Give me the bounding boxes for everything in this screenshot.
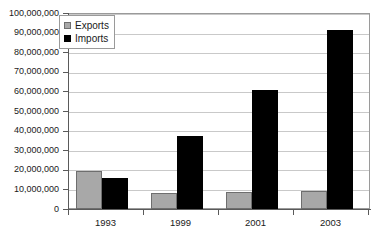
y-axis-tick [63,91,68,92]
bar-imports-1999[interactable] [177,136,203,209]
y-axis-label-0: 0 [54,205,59,214]
y-axis-label-50000000: 50,000,000 [14,107,59,116]
x-axis-label-1993: 1993 [68,217,143,228]
x-axis-line [68,209,371,210]
bar-imports-1993[interactable] [102,178,128,209]
y-axis-label-30000000: 30,000,000 [14,146,59,155]
legend-item-exports[interactable]: Exports [64,19,109,32]
bar-exports-1999[interactable] [151,193,177,209]
y-axis-label-70000000: 70,000,000 [14,67,59,76]
legend-item-imports[interactable]: Imports [64,32,109,45]
x-axis-tick [143,210,144,215]
bar-imports-2001[interactable] [252,90,278,209]
y-axis-tick [63,72,68,73]
x-axis-tick [218,210,219,215]
y-axis-tick [63,150,68,151]
bar-exports-1993[interactable] [76,171,102,209]
bar-exports-2003[interactable] [301,191,327,209]
imports-swatch-icon [64,35,71,42]
y-axis-tick [63,13,68,14]
x-axis-label-1999: 1999 [143,217,218,228]
bar-imports-2003[interactable] [327,30,353,209]
x-axis-label-2003: 2003 [293,217,368,228]
x-axis-tick [68,210,69,215]
y-axis-label-20000000: 20,000,000 [14,165,59,174]
bar-chart: 100,000,000 90,000,000 80,000,000 70,000… [0,0,383,246]
legend-label-exports: Exports [75,20,109,31]
y-axis-label-80000000: 80,000,000 [14,48,59,57]
y-axis-tick [63,111,68,112]
bar-exports-2001[interactable] [226,192,252,209]
y-axis-label-40000000: 40,000,000 [14,126,59,135]
y-axis-label-60000000: 60,000,000 [14,87,59,96]
y-axis-tick [63,131,68,132]
chart-legend: Exports Imports [59,15,115,49]
y-axis-tick [63,52,68,53]
y-axis-label-100000000: 100,000,000 [9,9,59,18]
y-axis-tick [63,170,68,171]
x-axis-tick [293,210,294,215]
y-axis-tick [63,189,68,190]
exports-swatch-icon [64,22,71,29]
x-axis-label-2001: 2001 [218,217,293,228]
x-axis-tick [368,210,369,215]
legend-label-imports: Imports [75,33,108,44]
y-axis-label-90000000: 90,000,000 [14,28,59,37]
y-axis-label-10000000: 10,000,000 [14,185,59,194]
